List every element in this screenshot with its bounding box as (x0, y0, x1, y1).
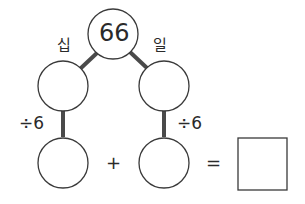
number-bond-diagram (0, 0, 305, 204)
left-operation: ÷6 (19, 115, 44, 132)
result-box[interactable] (238, 138, 287, 190)
left-mid-circle[interactable] (38, 61, 88, 111)
plus-sign: + (106, 154, 121, 172)
right-operation: ÷6 (177, 115, 202, 132)
right-branch-label: 일 (153, 38, 167, 53)
top-value: 66 (99, 21, 127, 45)
equals-sign: = (206, 154, 221, 172)
connector-top-right (130, 52, 148, 69)
right-bottom-circle[interactable] (139, 138, 189, 188)
connector-top-left (80, 52, 98, 69)
left-branch-label: 십 (57, 38, 71, 53)
left-bottom-circle[interactable] (38, 138, 88, 188)
right-mid-circle[interactable] (139, 61, 189, 111)
